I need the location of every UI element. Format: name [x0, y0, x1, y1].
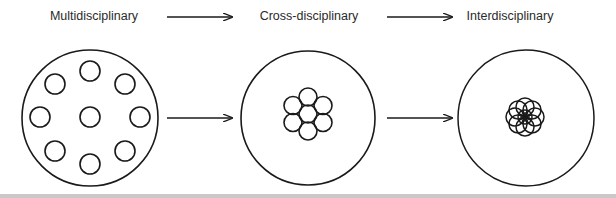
- multidisciplinary-circle-group: [22, 50, 158, 186]
- bottom-divider: [0, 194, 616, 198]
- cross-disciplinary-circle-group: [241, 51, 375, 185]
- disciplinarity-diagram: [0, 0, 616, 198]
- interdisciplinary-circle-group: [458, 50, 594, 186]
